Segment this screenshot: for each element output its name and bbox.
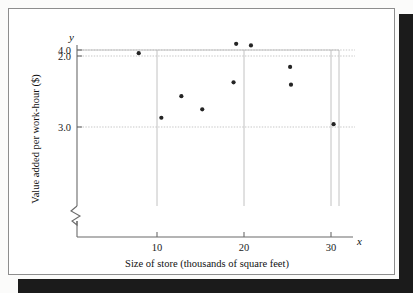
page-shadow-bottom bbox=[18, 279, 413, 293]
data-point bbox=[231, 80, 235, 84]
axis-lines bbox=[77, 45, 353, 237]
data-point bbox=[249, 43, 253, 47]
data-point bbox=[289, 83, 293, 87]
x-tick-label: 30 bbox=[326, 242, 337, 253]
data-point bbox=[234, 42, 238, 46]
y-tick-label: 4.0 bbox=[58, 45, 71, 56]
page-shadow-right bbox=[399, 14, 413, 293]
x-tick-labels: 102030 bbox=[152, 242, 337, 253]
vertical-gridlines bbox=[157, 50, 331, 206]
data-point-group bbox=[137, 42, 336, 127]
data-point bbox=[332, 122, 336, 126]
chart-canvas: 102030 2.03.04.0 x y Size of store (thou… bbox=[9, 9, 396, 276]
axis-ticks bbox=[77, 50, 331, 237]
figure-page: 102030 2.03.04.0 x y Size of store (thou… bbox=[0, 0, 413, 293]
horizontal-gridlines bbox=[77, 50, 355, 127]
y-tick-labels: 2.03.04.0 bbox=[58, 45, 71, 133]
scatter-plot: 102030 2.03.04.0 x y Size of store (thou… bbox=[9, 9, 396, 276]
x-axis-title: Size of store (thousands of square feet) bbox=[125, 258, 289, 270]
figure-card: 102030 2.03.04.0 x y Size of store (thou… bbox=[8, 8, 395, 275]
x-tick-label: 10 bbox=[152, 242, 163, 253]
y-axis-title: Value added per work-hour ($) bbox=[30, 74, 42, 204]
x-tick-label: 20 bbox=[239, 242, 250, 253]
y-axis-symbol: y bbox=[68, 31, 74, 43]
data-point bbox=[159, 116, 163, 120]
data-point bbox=[288, 65, 292, 69]
data-point bbox=[200, 107, 204, 111]
plot-frame bbox=[77, 50, 339, 206]
x-axis-symbol: x bbox=[356, 235, 362, 247]
y-axis-break-icon bbox=[71, 206, 80, 225]
y-tick-label: 3.0 bbox=[58, 122, 71, 133]
data-point bbox=[179, 94, 183, 98]
data-point bbox=[137, 51, 141, 55]
